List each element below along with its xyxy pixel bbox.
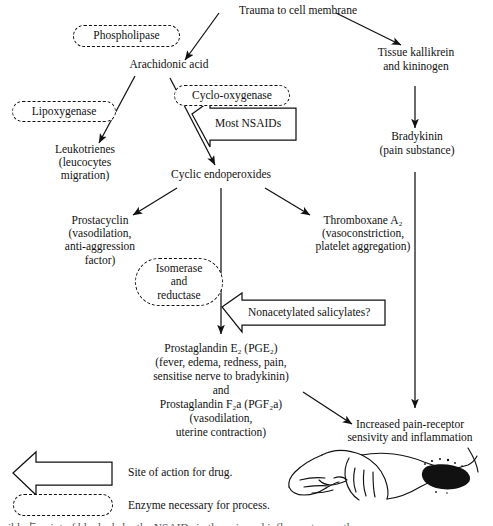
prostaglandin-line-1: Prostaglandin E₂ (PGE₂) — [71, 341, 371, 355]
edge-trauma-to-kallikrein — [336, 13, 401, 45]
enzyme-isomerase-and-reductase: Isomerase and reductase — [135, 258, 223, 306]
legend-enzyme-label: Enzyme necessary for process. — [128, 499, 270, 511]
legend-block-arrow — [13, 452, 112, 495]
edge-trauma-to-arachidonic — [185, 13, 219, 60]
enzyme-cyclo-oxygenase: Cyclo-oxygenase — [174, 85, 290, 106]
prostaglandin-line-3: sensitise nerve to bradykinin) — [71, 369, 371, 383]
node-thromboxane-a2: Thromboxane A₂ (vasoconstriction, platel… — [287, 214, 439, 254]
figure-caption: ible点 point of blockade by the NSAIDs in… — [8, 519, 478, 526]
legend-enzyme-capsule — [13, 494, 113, 516]
label-nonacetylated-salicylates: Nonacetylated salicylates? — [248, 306, 370, 318]
prostaglandin-line-6: (vasodilation, — [71, 411, 371, 425]
enzyme-lipoxygenase: Lipoxygenase — [12, 101, 116, 122]
enzyme-phospholipase: Phospholipase — [73, 25, 180, 47]
label-most-nsaids: Most NSAIDs — [215, 117, 281, 129]
prostaglandin-line-4: and — [71, 383, 371, 397]
node-cyclic-endoperoxides: Cyclic endoperoxides — [156, 168, 286, 182]
node-increased-pain-receptor: Increased pain-receptor sensivity and in… — [327, 418, 493, 444]
legend-site-of-action-label: Site of action for drug. — [128, 466, 232, 478]
arachidonic-acid-cascade-diagram: Trauma to cell membrane Phospholipase Ar… — [0, 0, 493, 526]
node-prostaglandin-block: Prostaglandin E₂ (PGE₂) (fever, edema, r… — [71, 341, 371, 439]
node-trauma-to-cell-membrane: Trauma to cell membrane — [218, 4, 378, 18]
node-tissue-kallikrein-and-kininogen: Tissue kallikrein and kininogen — [355, 46, 477, 73]
node-prostacyclin: Prostacyclin (vasodilation, anti-aggress… — [45, 214, 155, 267]
prostaglandin-line-5: Prostaglandin F₂a (PGF₂a) — [71, 397, 371, 411]
node-bradykinin: Bradykinin (pain substance) — [355, 130, 479, 157]
prostaglandin-line-7: uterine contraction) — [71, 425, 371, 439]
edge-endoperoxides-to-thromboxane — [265, 188, 310, 215]
edge-endoperoxides-to-prostacyclin — [133, 188, 177, 215]
node-leukotrienes: Leukotrienes (leucocytes migration) — [28, 143, 142, 183]
inflamed-arm-illustration — [289, 448, 478, 500]
node-arachidonic-acid: Arachidonic acid — [99, 58, 239, 72]
prostaglandin-line-2: (fever, edema, redness, pain, — [71, 355, 371, 369]
